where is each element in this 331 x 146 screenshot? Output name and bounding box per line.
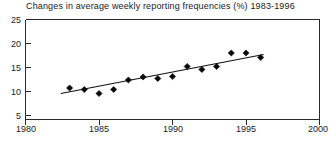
data-point: [111, 86, 117, 92]
x-axis-ticks: [26, 120, 320, 125]
trend-line: [61, 55, 264, 94]
data-point: [169, 73, 175, 79]
x-axis-tick-labels: 1980 1985 1990 1995 2000: [16, 124, 328, 134]
y-axis-ticks: [26, 20, 31, 116]
x-tick-label-1985: 1985: [89, 124, 109, 134]
y-tick-label-15: 15: [11, 63, 21, 73]
y-tick-label-20: 20: [11, 39, 21, 49]
data-point: [67, 85, 73, 91]
x-tick-label-1995: 1995: [236, 124, 256, 134]
x-tick-label-2000: 2000: [308, 124, 328, 134]
x-tick-label-1980: 1980: [16, 124, 36, 134]
data-point: [125, 77, 131, 83]
y-tick-label-5: 5: [16, 111, 21, 121]
data-point: [228, 50, 234, 56]
axis-frame-top-right: [26, 20, 320, 120]
y-axis-tick-labels: 25 20 15 10 5: [11, 15, 21, 121]
y-tick-label-25: 25: [11, 15, 21, 25]
data-point: [81, 86, 87, 92]
x-tick-label-1990: 1990: [163, 124, 183, 134]
data-point: [155, 75, 161, 81]
y-tick-label-10: 10: [11, 87, 21, 97]
axis-spines: [26, 20, 320, 120]
data-point: [243, 50, 249, 56]
data-point: [96, 90, 102, 96]
data-point: [140, 74, 146, 80]
chart-container: Changes in average weekly reporting freq…: [0, 0, 331, 146]
chart-plot-area: 25 20 15 10 5 1980 1985 1990 1995 2000: [0, 0, 331, 146]
